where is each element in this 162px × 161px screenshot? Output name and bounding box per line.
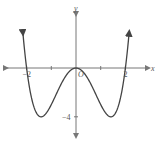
- x-tick-label: −2: [23, 70, 32, 79]
- y-tick-label: −4: [62, 113, 71, 122]
- x-tick-label: 2: [123, 70, 127, 79]
- labels: x y O −22−4: [23, 4, 155, 122]
- origin-label: O: [78, 70, 84, 79]
- x-axis-label: x: [150, 64, 155, 73]
- y-axis-label: y: [73, 4, 78, 13]
- function-graph: x y O −22−4: [0, 0, 162, 161]
